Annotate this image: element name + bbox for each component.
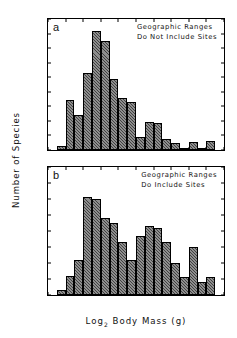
x-tick-mark <box>171 19 172 22</box>
histogram-bar <box>171 263 180 295</box>
histogram-bar <box>66 100 75 150</box>
panel-a-annotation-line1: Geographic Ranges <box>137 23 217 33</box>
plot-area-a: a Geographic Ranges Do Not Include Sites… <box>47 18 225 151</box>
histogram-bar <box>57 146 66 150</box>
panel-b-annotation-line1: Geographic Ranges <box>141 171 217 181</box>
y-tick-mark <box>221 215 224 216</box>
histogram-bar <box>127 260 136 295</box>
histogram-bar <box>171 143 180 150</box>
x-axis-label-suffix: Body Mass (g) <box>109 316 187 326</box>
x-tick-mark <box>118 167 119 170</box>
histogram-bar <box>145 122 154 150</box>
y-tick-mark <box>221 231 224 232</box>
panel-a-annotation: Geographic Ranges Do Not Include Sites <box>137 23 217 43</box>
panel-letter-b: b <box>53 169 59 181</box>
histogram-bar <box>92 31 101 150</box>
histogram-bar <box>118 242 127 295</box>
y-tick-mark <box>221 120 224 121</box>
x-tick-mark <box>83 167 84 170</box>
y-tick-mark <box>48 91 51 92</box>
histogram-bar <box>189 142 198 150</box>
x-tick-mark <box>188 19 189 22</box>
x-tick-mark <box>48 19 49 22</box>
histogram-bar <box>83 197 92 295</box>
x-tick-mark <box>188 167 189 170</box>
x-tick-mark <box>206 167 207 170</box>
panel-a-annotation-line2: Do Not Include Sites <box>137 33 217 43</box>
x-axis-label: Log2 Body Mass (g) <box>47 316 225 328</box>
histogram-bar <box>118 98 127 150</box>
y-tick-mark <box>48 279 51 280</box>
histogram-bar <box>180 277 189 295</box>
y-tick-mark <box>48 120 51 121</box>
panel-letter-a: a <box>53 21 59 33</box>
y-tick-mark <box>48 215 51 216</box>
x-tick-mark <box>206 19 207 22</box>
histogram-bar <box>66 276 75 295</box>
histogram-bar <box>57 290 66 295</box>
y-tick-mark <box>221 247 224 248</box>
x-tick-mark <box>48 292 49 295</box>
histogram-bar <box>198 148 207 150</box>
figure-histogram-body-mass: Number of Species a Geographic Ranges Do… <box>0 0 237 338</box>
x-tick-mark <box>136 19 137 22</box>
panel-b-annotation: Geographic Ranges Do Include Sites <box>141 171 217 191</box>
histogram-bar <box>162 139 171 150</box>
histogram-bar <box>154 228 163 295</box>
histogram-bar <box>198 282 207 295</box>
x-tick-mark <box>48 147 49 150</box>
histogram-bar <box>145 226 154 295</box>
histogram-bar <box>101 41 110 150</box>
histogram-bar <box>162 242 171 295</box>
y-tick-mark <box>48 135 51 136</box>
y-tick-mark <box>221 77 224 78</box>
y-tick-mark <box>48 183 51 184</box>
x-tick-mark <box>83 19 84 22</box>
y-tick-mark <box>221 135 224 136</box>
y-tick-mark <box>221 48 224 49</box>
x-tick-mark <box>224 167 225 170</box>
plot-area-b: b Geographic Ranges Do Include Sites 010… <box>47 166 225 296</box>
histogram-bar <box>206 277 215 295</box>
histogram-bar <box>136 236 145 295</box>
y-axis-label: Number of Species <box>11 90 21 230</box>
histogram-bar <box>136 137 145 150</box>
y-tick-mark <box>221 33 224 34</box>
x-tick-mark <box>100 19 101 22</box>
histogram-bar <box>74 260 83 295</box>
y-tick-mark <box>48 106 51 107</box>
x-tick-mark <box>48 167 49 170</box>
y-tick-mark <box>221 183 224 184</box>
x-tick-mark <box>100 167 101 170</box>
histogram-bar <box>74 115 83 150</box>
y-tick-mark <box>48 33 51 34</box>
y-tick-mark <box>48 231 51 232</box>
histogram-bar <box>180 148 189 150</box>
histogram-bar <box>110 223 119 295</box>
histogram-bar <box>101 218 110 295</box>
y-tick-mark <box>48 77 51 78</box>
x-tick-mark <box>224 292 225 295</box>
histogram-bar <box>206 141 215 150</box>
x-tick-mark <box>153 19 154 22</box>
histogram-bar <box>92 199 101 295</box>
x-tick-mark <box>171 167 172 170</box>
y-tick-mark <box>221 62 224 63</box>
y-tick-mark <box>48 263 51 264</box>
y-tick-mark <box>221 279 224 280</box>
x-tick-mark <box>224 19 225 22</box>
histogram-bar <box>110 79 119 150</box>
y-tick-mark <box>221 199 224 200</box>
y-tick-mark <box>48 247 51 248</box>
x-tick-mark <box>65 19 66 22</box>
x-tick-mark <box>136 167 137 170</box>
histogram-bar <box>154 123 163 150</box>
histogram-bar <box>127 102 136 150</box>
y-tick-mark <box>221 263 224 264</box>
histogram-bar <box>189 247 198 295</box>
y-tick-mark <box>221 106 224 107</box>
histogram-bar <box>83 73 92 150</box>
y-tick-mark <box>48 62 51 63</box>
panel-b-annotation-line2: Do Include Sites <box>141 181 217 191</box>
x-tick-mark <box>153 167 154 170</box>
